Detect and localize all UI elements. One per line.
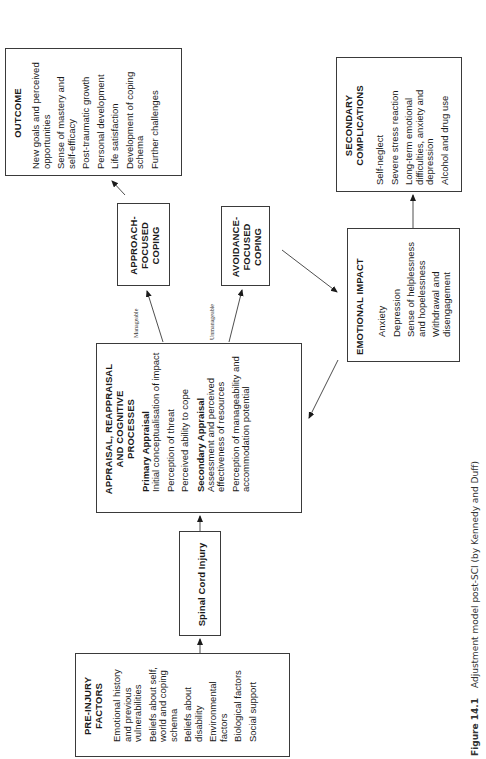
secondary-appraisal-list: Assessment and perceived effectiveness o…	[206, 352, 252, 492]
list-item: Depression	[392, 237, 403, 337]
secondary-complications-box: SECONDARY COMPLICATIONS Self-neglect Sev…	[336, 57, 462, 192]
list-item: Beliefs about self, world and coping sch…	[148, 660, 180, 742]
outcome-box: OUTCOME New goals and perceived opportun…	[5, 48, 182, 176]
secondary-appraisal-section: Secondary Appraisal Assessment and perce…	[195, 352, 252, 496]
list-item: Long-term emotional difficulties, anxiet…	[404, 66, 436, 185]
secondary-appraisal-title: Secondary Appraisal	[195, 352, 206, 492]
list-item: Biological factors	[233, 660, 244, 742]
spinal-cord-injury-title: Spinal Cord Injury	[196, 543, 207, 627]
appraisal-box: APPRAISAL, REAPPRAISAL AND COGNITIVE PRO…	[96, 343, 302, 513]
appraisal-title: APPRAISAL, REAPPRAISAL AND COGNITIVE PRO…	[103, 352, 136, 496]
list-item: Perceived ability to cope	[180, 352, 191, 492]
primary-appraisal-list: Initial conceptualisation of impact Perc…	[151, 352, 191, 492]
approach-coping-title: APPROACH-FOCUSED COPING	[128, 215, 161, 277]
list-item: New goals and perceived opportunities	[31, 57, 52, 169]
list-item: Sense of helplessness and hopelessness	[406, 237, 427, 337]
list-item: Perception of threat	[166, 352, 177, 492]
list-item: Emotional history and previous vulnerabi…	[112, 660, 144, 742]
list-item: Environmental factors	[208, 660, 229, 742]
list-item: Sense of mastery and self-efficacy	[56, 57, 77, 169]
list-item: Assessment and perceived effectiveness o…	[206, 352, 227, 492]
list-item: Alcohol and drug use	[440, 66, 451, 185]
arrow-unmanageable	[229, 290, 242, 342]
arrow-emotional-to-appraisal	[309, 360, 338, 418]
list-item: Beliefs about disability	[183, 660, 204, 742]
outcome-title: OUTCOME	[12, 57, 23, 169]
arrow-manageable	[147, 291, 163, 342]
pre-injury-list: Emotional history and previous vulnerabi…	[112, 660, 258, 752]
emotional-impact-box: EMOTIONAL IMPACT Anxiety Depression Sens…	[347, 228, 460, 362]
unmanageable-label: Unmanageable	[209, 304, 215, 340]
pre-injury-title: PRE-INJURY FACTORS	[82, 660, 104, 752]
arrow-avoidance-to-emotional	[282, 250, 337, 292]
list-item: Life satisfaction	[110, 57, 121, 169]
list-item: Anxiety	[377, 237, 388, 337]
approach-coping-box: APPROACH-FOCUSED COPING	[117, 203, 170, 286]
manageable-label: Manageable	[133, 309, 139, 338]
list-item: Self-neglect	[375, 66, 386, 185]
spinal-cord-injury-box: Spinal Cord Injury	[179, 531, 221, 636]
figure-caption: Figure 14.1Adjustment model post-SCI (by…	[470, 461, 480, 756]
arrow-approach-to-outcome	[112, 181, 125, 195]
emotional-impact-title: EMOTIONAL IMPACT	[354, 237, 365, 355]
secondary-complications-title: SECONDARY COMPLICATIONS	[343, 66, 365, 185]
emotional-impact-list: Anxiety Depression Sense of helplessness…	[377, 237, 452, 355]
avoidance-coping-title: AVOIDANCE-FOCUSED COPING	[230, 214, 263, 280]
list-item: Further challenges	[150, 57, 161, 169]
outcome-list: New goals and perceived opportunities Se…	[31, 57, 160, 169]
primary-appraisal-section: Primary Appraisal Initial conceptualisat…	[140, 352, 191, 496]
list-item: Withdrawal and disengagement	[431, 237, 452, 337]
list-item: Development of coping schema	[125, 57, 146, 169]
list-item: Personal development	[96, 57, 107, 169]
caption-text: Adjustment model post-SCI (by Kennedy an…	[470, 461, 480, 688]
secondary-complications-list: Self-neglect Severe stress reaction Long…	[375, 66, 450, 185]
pre-injury-box: PRE-INJURY FACTORS Emotional history and…	[75, 653, 290, 757]
list-item: Post-traumatic growth	[81, 57, 92, 169]
list-item: Severe stress reaction	[390, 66, 401, 185]
avoidance-coping-box: AVOIDANCE-FOCUSED COPING	[221, 206, 270, 286]
list-item: Initial conceptualisation of impact	[151, 352, 162, 492]
figure-number: Figure 14.1	[470, 698, 480, 756]
list-item: Social support	[248, 660, 259, 742]
list-item: Perception of manageability and accommod…	[231, 352, 252, 492]
